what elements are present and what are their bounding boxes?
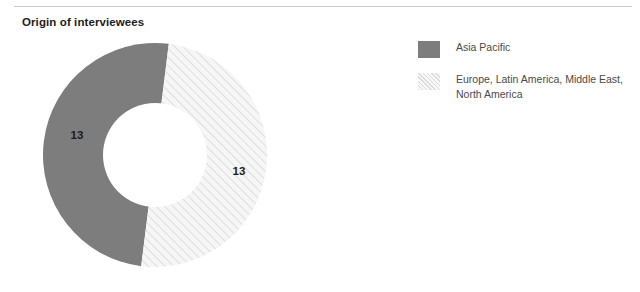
header-divider <box>14 6 632 7</box>
chart-legend: Asia Pacific Europe, Latin America, Midd… <box>418 40 628 115</box>
donut-label-asia-pacific: 13 <box>71 129 84 141</box>
legend-swatch-hatched-icon <box>418 73 440 90</box>
chart-page: Origin of interviewees 13 13 Asia P <box>0 0 640 292</box>
donut-label-other-regions: 13 <box>233 165 246 177</box>
legend-label-asia-pacific: Asia Pacific <box>456 40 510 55</box>
legend-item-other-regions[interactable]: Europe, Latin America, Middle East, Nort… <box>418 72 628 101</box>
page-title: Origin of interviewees <box>22 16 144 28</box>
donut-chart-svg: 13 13 <box>42 42 268 268</box>
donut-hole <box>103 103 207 207</box>
donut-chart: 13 13 <box>42 42 268 268</box>
legend-label-other-regions: Europe, Latin America, Middle East, Nort… <box>456 72 628 101</box>
legend-item-asia-pacific[interactable]: Asia Pacific <box>418 40 628 58</box>
legend-swatch-solid-icon <box>418 41 440 58</box>
